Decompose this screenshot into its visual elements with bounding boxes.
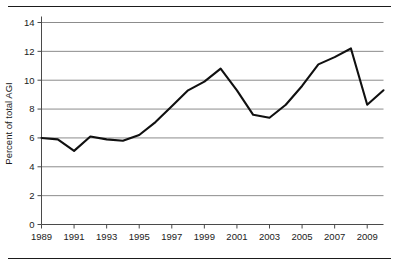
- x-axis-ticks-group: [42, 225, 368, 229]
- y-axis-tick-label: 2: [29, 190, 34, 201]
- y-axis-tick-label: 0: [29, 219, 34, 230]
- line-chart: 02468101214 1989199119931995199719992001…: [0, 0, 399, 265]
- y-axis-tick-label: 4: [29, 161, 34, 172]
- x-axis-tick-label: 1995: [129, 231, 150, 242]
- y-axis-tick-label: 10: [24, 75, 35, 86]
- gridlines-group: [42, 23, 384, 196]
- figure-container: 02468101214 1989199119931995199719992001…: [0, 0, 399, 265]
- x-axis-tick-labels-group: 1989199119931995199719992001200320052007…: [31, 231, 378, 242]
- y-axis-ticks-group: [38, 23, 42, 225]
- x-axis-tick-label: 1993: [96, 231, 117, 242]
- x-axis-tick-label: 2007: [324, 231, 345, 242]
- x-axis-tick-label: 1991: [64, 231, 85, 242]
- x-axis-tick-label: 1997: [161, 231, 182, 242]
- x-axis-tick-label: 2001: [226, 231, 247, 242]
- x-axis-tick-label: 2003: [259, 231, 280, 242]
- y-axis-title: Percent of total AGI: [3, 82, 14, 164]
- data-series-line: [42, 48, 384, 150]
- y-axis-tick-label: 8: [29, 103, 34, 114]
- x-axis-tick-label: 1999: [194, 231, 215, 242]
- chart-svg: 02468101214 1989199119931995199719992001…: [0, 0, 399, 265]
- y-axis-tick-labels-group: 02468101214: [24, 17, 35, 230]
- y-axis-tick-label: 6: [29, 132, 34, 143]
- y-axis-tick-label: 12: [24, 46, 35, 57]
- x-axis-tick-label: 2009: [357, 231, 378, 242]
- x-axis-tick-label: 2005: [292, 231, 313, 242]
- x-axis-tick-label: 1989: [31, 231, 52, 242]
- y-axis-tick-label: 14: [24, 17, 35, 28]
